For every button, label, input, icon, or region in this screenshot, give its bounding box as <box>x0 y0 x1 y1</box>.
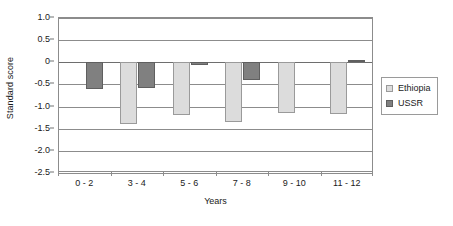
y-axis-tick-mark <box>50 149 54 150</box>
y-axis-tick-label: 0.5 <box>37 35 50 44</box>
x-axis-title: Years <box>58 196 373 206</box>
y-axis-tick-label: -1.0 <box>34 101 50 110</box>
x-axis-tick-mark <box>372 172 373 176</box>
bar-group <box>59 18 112 171</box>
x-axis-tick-label: 3 - 4 <box>128 178 146 189</box>
y-axis-tick-labels: 1.00.50-0.5-1.0-1.5-2.0-2.5 <box>14 10 54 174</box>
y-axis-tick-label: 1.0 <box>37 13 50 22</box>
y-axis-tick-label: -2.0 <box>34 145 50 154</box>
bar-group <box>269 18 322 171</box>
y-axis-tick-mark <box>50 172 54 173</box>
x-axis-tick-label: 0 - 2 <box>75 178 93 189</box>
x-axis-tick-mark <box>321 172 322 176</box>
bar-ethiopia-11-12 <box>330 62 347 114</box>
bar-group <box>112 18 165 171</box>
plot-area <box>58 17 373 172</box>
x-axis-ticks <box>58 172 373 177</box>
bar-ussr-0-2 <box>86 62 103 89</box>
x-axis-tick-label: 7 - 8 <box>233 178 251 189</box>
x-axis-tick-label: 9 - 10 <box>283 178 306 189</box>
y-axis-tick-label: -1.5 <box>34 123 50 132</box>
x-axis-tick-label: 11 - 12 <box>333 178 360 189</box>
x-axis-tick-mark <box>163 172 164 176</box>
y-axis-tick-label: -2.5 <box>34 168 50 177</box>
x-axis-tick-mark <box>58 172 59 176</box>
y-axis-tick-mark <box>50 39 54 40</box>
y-axis-tick-mark <box>50 105 54 106</box>
bar-ethiopia-9-10 <box>278 62 295 113</box>
x-axis-tick-mark <box>268 172 269 176</box>
y-axis-tick-label: -0.5 <box>34 79 50 88</box>
y-axis-tick-mark <box>50 17 54 18</box>
x-axis-tick-labels: 0 - 23 - 45 - 67 - 89 - 1011 - 12 <box>58 178 373 192</box>
bars-layer <box>59 18 372 171</box>
bar-ethiopia-5-6 <box>173 62 190 114</box>
bar-ussr-7-8 <box>243 62 260 80</box>
x-axis-tick-label: 5 - 6 <box>180 178 198 189</box>
legend: EthiopiaUSSR <box>381 77 438 115</box>
legend-label: Ethiopia <box>398 84 431 93</box>
x-axis-tick-mark <box>111 172 112 176</box>
legend-swatch-ethiopia <box>386 85 393 92</box>
bar-ethiopia-3-4 <box>120 62 137 124</box>
y-axis-tick-mark <box>50 127 54 128</box>
x-axis-tick-mark <box>216 172 217 176</box>
legend-swatch-ussr <box>386 100 393 107</box>
legend-item-ethiopia[interactable]: Ethiopia <box>386 82 431 95</box>
bar-ussr-3-4 <box>138 62 155 88</box>
bar-group <box>164 18 217 171</box>
y-axis-tick-mark <box>50 83 54 84</box>
y-axis-tick-label: 0 <box>45 57 50 66</box>
bar-group <box>217 18 270 171</box>
bar-ethiopia-7-8 <box>225 62 242 121</box>
bar-ussr-11-12 <box>348 60 365 63</box>
bar-chart: Standard score 1.00.50-0.5-1.0-1.5-2.0-2… <box>0 0 453 226</box>
legend-item-ussr[interactable]: USSR <box>386 97 431 110</box>
bar-group <box>322 18 375 171</box>
legend-label: USSR <box>398 99 423 108</box>
bar-ussr-5-6 <box>191 62 208 65</box>
y-axis-tick-mark <box>50 61 54 62</box>
